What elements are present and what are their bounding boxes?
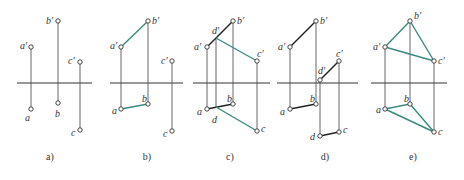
point-label: b: [227, 93, 232, 104]
point-marker: [432, 130, 436, 134]
panel-caption: b): [143, 151, 151, 163]
point-label: c: [163, 128, 168, 139]
point-marker: [288, 45, 292, 49]
teal-segment: [216, 38, 257, 61]
panel-e: a′b′c′abce): [371, 10, 447, 163]
point-marker: [288, 107, 292, 111]
orthographic-projection-figure: a′b′c′abca)a′b′c′abcb)a′d′b′c′adbcc)a′b′…: [0, 0, 464, 180]
point-marker: [318, 78, 322, 82]
point-label: d′: [212, 25, 220, 36]
point-label: a: [112, 105, 117, 116]
black-segment: [207, 21, 233, 47]
panel-caption: e): [409, 151, 417, 163]
point-marker: [231, 19, 235, 23]
point-label: d′: [318, 65, 326, 76]
point-label: b′: [320, 15, 328, 26]
figure-svg: a′b′c′abca)a′b′c′abcb)a′d′b′c′adbcc)a′b′…: [0, 0, 464, 180]
panel-caption: a): [46, 151, 54, 163]
black-segment: [290, 21, 316, 47]
point-label: a′: [278, 41, 286, 52]
point-marker: [205, 107, 209, 111]
point-label: a′: [110, 40, 118, 51]
point-label: b: [142, 93, 147, 104]
point-marker: [383, 45, 387, 49]
point-label: a: [280, 106, 285, 117]
point-label: b: [55, 108, 60, 119]
point-marker: [119, 45, 123, 49]
point-marker: [383, 107, 387, 111]
teal-segment: [121, 104, 148, 109]
point-marker: [78, 60, 82, 64]
point-marker: [170, 129, 174, 133]
point-marker: [432, 59, 436, 63]
point-label: a: [376, 104, 381, 115]
point-marker: [56, 101, 60, 105]
point-marker: [119, 107, 123, 111]
point-marker: [170, 59, 174, 63]
panel-c: a′d′b′c′adbcc): [193, 15, 270, 163]
black-segment: [320, 132, 339, 136]
point-label: c: [261, 123, 266, 134]
point-label: c: [438, 126, 443, 137]
teal-segment: [121, 21, 148, 47]
point-marker: [337, 59, 341, 63]
point-label: c′: [438, 55, 445, 66]
point-label: a′: [194, 41, 202, 52]
point-label: a: [25, 112, 30, 123]
black-segment: [207, 104, 233, 109]
point-label: a: [197, 106, 202, 117]
point-marker: [146, 19, 150, 23]
point-marker: [337, 130, 341, 134]
point-label: c′: [161, 55, 168, 66]
point-label: d: [212, 114, 218, 125]
point-marker: [255, 129, 259, 133]
point-marker: [56, 19, 60, 23]
point-marker: [408, 19, 412, 23]
point-marker: [314, 19, 318, 23]
panel-a: a′b′c′abca): [17, 15, 92, 163]
point-label: c′: [68, 55, 75, 66]
point-marker: [205, 45, 209, 49]
point-marker: [78, 128, 82, 132]
teal-segment: [410, 104, 434, 132]
point-label: b: [310, 93, 315, 104]
point-label: a′: [373, 41, 381, 52]
panel-caption: c): [226, 151, 234, 163]
teal-segment: [385, 109, 434, 132]
panel-caption: d): [321, 151, 329, 163]
point-label: b′: [46, 15, 54, 26]
point-marker: [29, 107, 33, 111]
point-label: a′: [20, 40, 28, 51]
point-marker: [318, 134, 322, 138]
panel-d: a′b′c′d′abdcd): [277, 15, 358, 163]
point-label: c′: [336, 48, 343, 59]
point-marker: [29, 45, 33, 49]
point-label: c: [71, 127, 76, 138]
black-segment: [290, 104, 316, 109]
point-label: b′: [237, 15, 245, 26]
point-label: b′: [414, 10, 422, 21]
teal-segment: [385, 104, 410, 109]
teal-segment: [216, 107, 257, 131]
teal-segment: [385, 21, 410, 47]
point-label: c: [343, 124, 348, 135]
panel-b: a′b′c′abcb): [110, 15, 183, 163]
point-label: b: [404, 93, 409, 104]
point-label: c′: [257, 48, 264, 59]
point-label: b′: [152, 15, 160, 26]
point-label: d: [310, 131, 316, 142]
point-marker: [255, 59, 259, 63]
